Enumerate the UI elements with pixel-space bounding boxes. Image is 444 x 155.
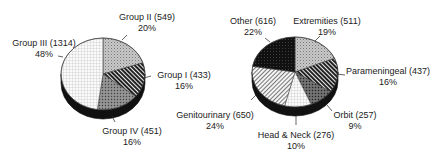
label-head-neck: Head & Neck (276) 10%: [258, 130, 335, 152]
label-percent: 16%: [102, 137, 162, 148]
label-group-ii: Group II (549) 20%: [119, 12, 175, 34]
label-percent: 10%: [258, 141, 335, 152]
right-pie: [251, 36, 345, 125]
label-percent: 22%: [230, 27, 276, 38]
pie-slice: [253, 37, 295, 72]
label-extremities: Extremities (511) 19%: [293, 16, 360, 38]
label-name: Extremities (511): [293, 16, 360, 27]
label-name: Genitourinary (650): [176, 110, 254, 121]
label-name: Group II (549): [119, 12, 175, 23]
label-genitourinary: Genitourinary (650) 24%: [176, 110, 254, 132]
label-percent: 9%: [333, 121, 376, 132]
label-other: Other (616) 22%: [230, 16, 276, 38]
label-orbit: Orbit (257) 9%: [333, 110, 376, 132]
label-percent: 16%: [157, 81, 211, 92]
label-group-iii: Group III (1314) 48%: [12, 38, 76, 60]
label-name: Other (616): [230, 16, 276, 27]
label-percent: 24%: [176, 121, 254, 132]
label-group-iv: Group IV (451) 16%: [102, 126, 162, 148]
label-name: Group III (1314): [12, 38, 76, 49]
label-name: Parameningeal (437): [346, 66, 430, 77]
label-percent: 19%: [293, 27, 360, 38]
label-name: Group I (433): [157, 70, 211, 81]
label-percent: 48%: [12, 49, 76, 60]
label-percent: 16%: [346, 77, 430, 88]
label-group-i: Group I (433) 16%: [157, 70, 211, 92]
label-name: Group IV (451): [102, 126, 162, 137]
label-percent: 20%: [119, 23, 175, 34]
label-name: Head & Neck (276): [258, 130, 335, 141]
label-name: Orbit (257): [333, 110, 376, 121]
label-parameningeal: Parameningeal (437) 16%: [346, 66, 430, 88]
